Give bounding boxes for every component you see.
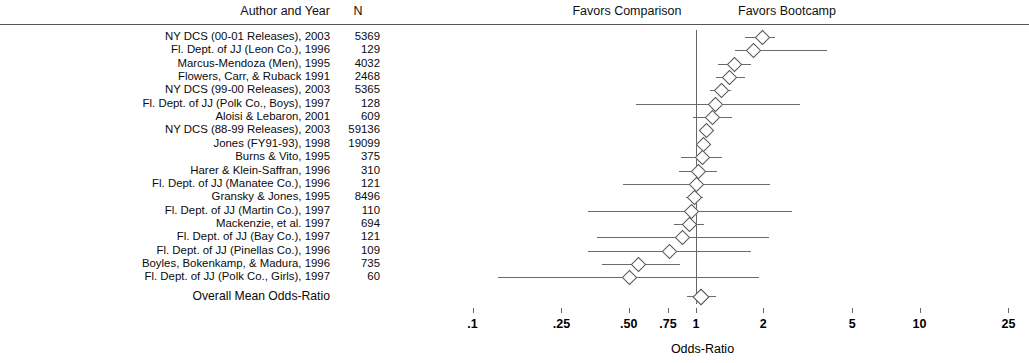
confidence-interval-line bbox=[588, 251, 751, 252]
study-label: Fl. Dept. of JJ (Martin Co.), 1997 bbox=[0, 205, 330, 216]
study-sample-size: 121 bbox=[336, 178, 380, 189]
x-axis-title-text: Odds-Ratio bbox=[671, 342, 734, 356]
study-sample-size: 735 bbox=[336, 258, 380, 269]
study-label: Fl. Dept. of JJ (Polk Co., Girls), 1997 bbox=[0, 271, 330, 282]
confidence-interval-line bbox=[623, 184, 770, 185]
confidence-interval-line bbox=[693, 117, 732, 118]
odds-ratio-marker bbox=[694, 150, 710, 166]
odds-ratio-marker bbox=[687, 190, 703, 206]
odds-ratio-marker bbox=[722, 70, 738, 86]
column-header-author: Author and Year bbox=[0, 4, 330, 18]
x-axis-tick-label: 5 bbox=[849, 317, 856, 331]
confidence-interval-line bbox=[718, 64, 750, 65]
odds-ratio-marker bbox=[708, 96, 724, 112]
odds-ratio-marker bbox=[691, 163, 707, 179]
study-sample-size: 109 bbox=[336, 245, 380, 256]
odds-ratio-marker bbox=[705, 110, 721, 126]
confidence-interval-line bbox=[597, 237, 770, 238]
null-reference-line bbox=[696, 30, 697, 304]
confidence-interval-line bbox=[636, 104, 800, 105]
odds-ratio-marker bbox=[621, 270, 637, 286]
odds-ratio-marker bbox=[745, 43, 761, 59]
odds-ratio-marker bbox=[699, 123, 715, 139]
study-sample-size: 110 bbox=[336, 205, 380, 216]
study-sample-size: 4032 bbox=[336, 58, 380, 69]
x-axis-tick-label: 2 bbox=[760, 317, 767, 331]
odds-ratio-marker bbox=[662, 243, 678, 259]
favors-comparison-label: Favors Comparison bbox=[540, 4, 714, 18]
confidence-interval-line bbox=[686, 197, 703, 198]
x-axis-tick-label: .75 bbox=[659, 317, 676, 331]
x-axis-title: Odds-Ratio bbox=[0, 342, 1029, 356]
x-axis-tick bbox=[763, 308, 764, 313]
odds-ratio-marker bbox=[675, 230, 691, 246]
study-label: Aloisi & Lebaron, 2001 bbox=[0, 111, 330, 122]
odds-ratio-marker bbox=[755, 30, 771, 46]
study-sample-size: 375 bbox=[336, 151, 380, 162]
study-label: Fl. Dept. of JJ (Polk Co., Boys), 1997 bbox=[0, 98, 330, 109]
odds-ratio-marker bbox=[631, 257, 647, 273]
study-sample-size: 60 bbox=[336, 271, 380, 282]
odds-ratio-marker bbox=[696, 137, 712, 153]
study-label: Marcus-Mendoza (Men), 1995 bbox=[0, 58, 330, 69]
overall-odds-ratio-marker bbox=[693, 288, 710, 305]
x-axis-tick bbox=[668, 308, 669, 313]
study-label: NY DCS (00-01 Releases), 2003 bbox=[0, 31, 330, 42]
x-axis-tick-label: 1 bbox=[693, 317, 700, 331]
x-axis-tick bbox=[1008, 308, 1009, 313]
study-label: Boyles, Bokenkamp, & Madura, 1996 bbox=[0, 258, 330, 269]
confidence-interval-line bbox=[588, 211, 792, 212]
x-axis-tick-label: 10 bbox=[913, 317, 927, 331]
study-sample-size: 59136 bbox=[336, 124, 380, 135]
study-label: Flowers, Carr, & Ruback 1991 bbox=[0, 71, 330, 82]
study-label: Fl. Dept. of JJ (Pinellas Co.), 1996 bbox=[0, 245, 330, 256]
x-axis-tick bbox=[920, 308, 921, 313]
odds-ratio-marker bbox=[684, 203, 700, 219]
confidence-interval-line bbox=[702, 130, 712, 131]
x-axis-tick bbox=[696, 308, 697, 313]
study-label: NY DCS (88-99 Releases), 2003 bbox=[0, 124, 330, 135]
confidence-interval-line bbox=[745, 37, 775, 38]
confidence-interval-line bbox=[679, 171, 717, 172]
confidence-interval-line bbox=[498, 277, 759, 278]
x-axis-tick-label: .1 bbox=[467, 317, 477, 331]
study-label: Gransky & Jones, 1995 bbox=[0, 191, 330, 202]
study-label: Harer & Klein-Saffran, 1996 bbox=[0, 165, 330, 176]
study-label: Burns & Vito, 1995 bbox=[0, 151, 330, 162]
overall-mean-label: Overall Mean Odds-Ratio bbox=[0, 289, 330, 303]
x-axis-tick-label: 25 bbox=[1001, 317, 1015, 331]
odds-ratio-marker bbox=[682, 217, 698, 233]
x-axis-tick bbox=[561, 308, 562, 313]
confidence-interval-line bbox=[710, 90, 730, 91]
favors-bootcamp-label: Favors Bootcamp bbox=[700, 4, 874, 18]
study-sample-size: 121 bbox=[336, 231, 380, 242]
x-axis-tick bbox=[629, 308, 630, 313]
study-sample-size: 310 bbox=[336, 165, 380, 176]
study-sample-size: 609 bbox=[336, 111, 380, 122]
confidence-interval-line bbox=[674, 224, 704, 225]
odds-ratio-marker bbox=[727, 56, 743, 72]
x-axis-tick-label: .25 bbox=[553, 317, 570, 331]
confidence-interval-line bbox=[681, 157, 722, 158]
odds-ratio-marker bbox=[689, 177, 705, 193]
confidence-interval-line bbox=[716, 77, 745, 78]
study-sample-size: 128 bbox=[336, 98, 380, 109]
header-divider bbox=[0, 24, 1029, 25]
study-label: Jones (FY91-93), 1998 bbox=[0, 138, 330, 149]
forest-plot: Author and Year N Favors Comparison Favo… bbox=[0, 0, 1029, 363]
study-sample-size: 5369 bbox=[336, 31, 380, 42]
study-label: Mackenzie, et al. 1997 bbox=[0, 218, 330, 229]
study-sample-size: 2468 bbox=[336, 71, 380, 82]
confidence-interval-line bbox=[735, 50, 827, 51]
study-sample-size: 8496 bbox=[336, 191, 380, 202]
confidence-interval-line bbox=[696, 144, 711, 145]
x-axis-tick bbox=[852, 308, 853, 313]
confidence-interval-line bbox=[602, 264, 680, 265]
study-sample-size: 129 bbox=[336, 44, 380, 55]
study-label: Fl. Dept. of JJ (Leon Co.), 1996 bbox=[0, 44, 330, 55]
study-sample-size: 5365 bbox=[336, 84, 380, 95]
study-sample-size: 19099 bbox=[336, 138, 380, 149]
overall-confidence-interval-line bbox=[687, 296, 716, 297]
column-header-n: N bbox=[336, 4, 380, 18]
odds-ratio-marker bbox=[713, 83, 729, 99]
